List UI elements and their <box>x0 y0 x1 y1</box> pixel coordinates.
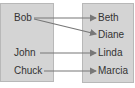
mapping-arrows <box>0 0 135 88</box>
arrow-bob-diane <box>34 19 96 34</box>
